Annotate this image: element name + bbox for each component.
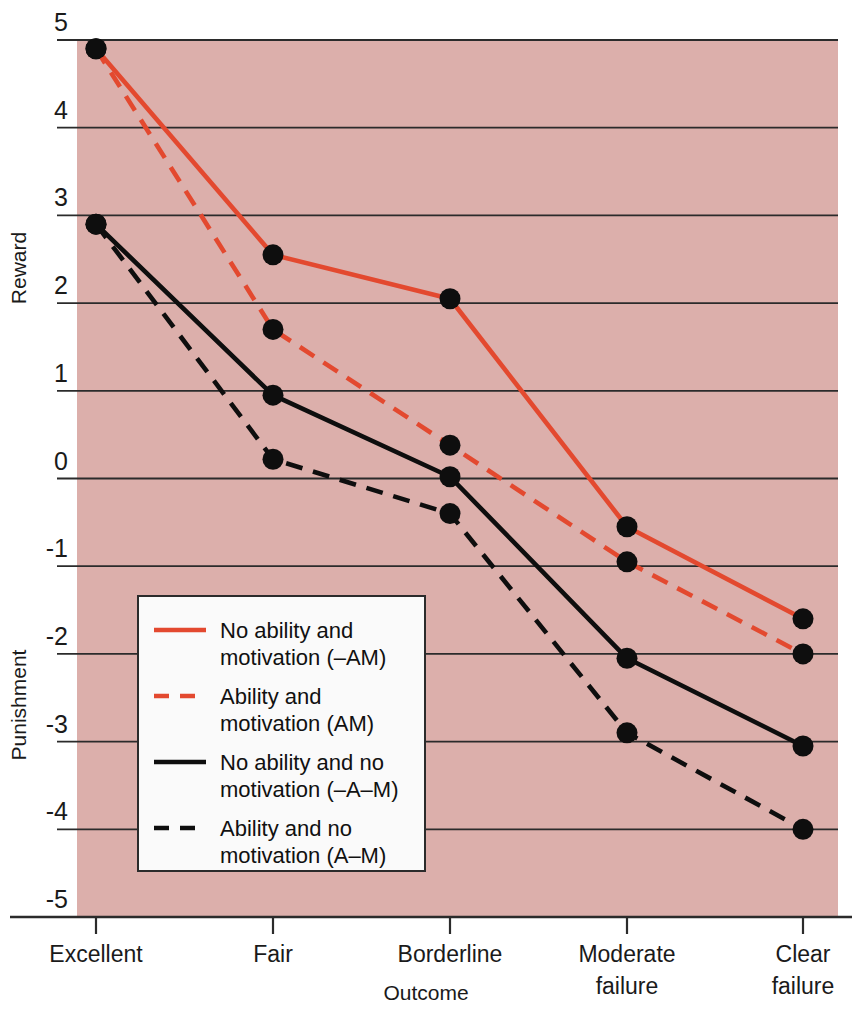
x-tick-label: Clear xyxy=(776,941,831,967)
x-tick-label: Borderline xyxy=(398,941,503,967)
y-tick-label: 0 xyxy=(54,447,68,475)
legend-item-label: No ability and no xyxy=(220,750,384,775)
data-point-marker xyxy=(617,648,638,669)
data-point-marker xyxy=(440,288,461,309)
y-tick-label: -2 xyxy=(46,622,68,650)
y-tick-label: 1 xyxy=(54,359,68,387)
x-tick-label: failure xyxy=(596,973,659,999)
legend-item-label: motivation (–AM) xyxy=(220,645,386,670)
data-point-marker xyxy=(263,244,284,265)
data-point-marker xyxy=(793,608,814,629)
y-axis-label-reward: Reward xyxy=(7,232,30,304)
data-point-marker xyxy=(86,38,107,59)
legend-item-label: motivation (AM) xyxy=(220,711,374,736)
y-tick-label: -1 xyxy=(46,534,68,562)
legend-item-label: motivation (A–M) xyxy=(220,843,386,868)
data-point-marker xyxy=(263,385,284,406)
line-chart: 543210-1-2-3-4-5 ExcellentFairBorderline… xyxy=(0,0,852,1013)
data-point-marker xyxy=(440,435,461,456)
legend-item-label: motivation (–A–M) xyxy=(220,777,399,802)
x-tick-label: Excellent xyxy=(49,941,143,967)
legend-item-label: No ability and xyxy=(220,618,353,643)
x-tick-label: failure xyxy=(772,973,835,999)
y-tick-label: -5 xyxy=(46,885,68,913)
chart-container: 543210-1-2-3-4-5 ExcellentFairBorderline… xyxy=(0,0,852,1013)
legend-item-label: Ability and no xyxy=(220,816,352,841)
data-point-marker xyxy=(440,503,461,524)
x-tick-label: Moderate xyxy=(578,941,675,967)
data-point-marker xyxy=(263,319,284,340)
y-tick-label: 2 xyxy=(54,271,68,299)
y-axis-label-punishment: Punishment xyxy=(7,649,30,760)
data-point-marker xyxy=(86,214,107,235)
data-point-marker xyxy=(793,643,814,664)
x-axis-label-outcome: Outcome xyxy=(383,981,468,1004)
data-point-marker xyxy=(793,735,814,756)
data-point-marker xyxy=(617,722,638,743)
y-tick-label: -4 xyxy=(46,797,68,825)
data-point-marker xyxy=(793,819,814,840)
data-point-marker xyxy=(263,449,284,470)
y-tick-label: 3 xyxy=(54,183,68,211)
chart-legend: No ability andmotivation (–AM)Ability an… xyxy=(138,596,425,871)
data-point-marker xyxy=(617,551,638,572)
data-point-marker xyxy=(617,516,638,537)
legend-item-label: Ability and xyxy=(220,684,322,709)
x-tick-label: Fair xyxy=(253,941,293,967)
data-point-marker xyxy=(440,466,461,487)
y-tick-label: 4 xyxy=(54,96,68,124)
y-tick-label: -3 xyxy=(46,710,68,738)
y-tick-label: 5 xyxy=(54,8,68,36)
